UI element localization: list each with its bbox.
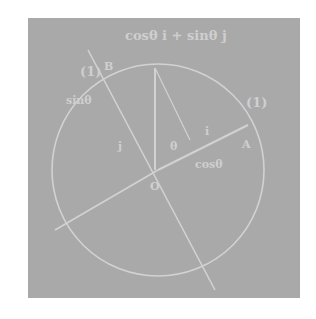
connector-line	[155, 68, 190, 140]
origin-label: O	[150, 180, 160, 193]
diagram-title: cosθ i + sinθ j	[125, 28, 227, 43]
unit-b-label: (1)	[80, 64, 101, 79]
cos-label: cosθ	[195, 158, 223, 171]
unit-a-label: (1)	[246, 95, 267, 110]
sin-label: sinθ	[66, 94, 92, 107]
lower-left-line	[55, 170, 158, 230]
vec-i-label: i	[205, 125, 209, 138]
point-b-label: B	[104, 60, 113, 73]
point-a-label: A	[242, 138, 251, 151]
theta-label: θ	[170, 140, 177, 153]
unit-circle-diagram	[0, 0, 316, 319]
vec-j-label: j	[118, 140, 122, 153]
